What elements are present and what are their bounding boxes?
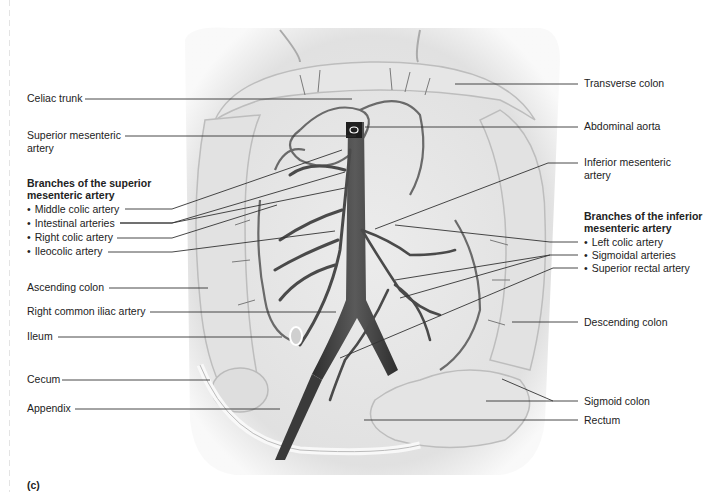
label-superior-mesenteric-artery-line2: artery <box>27 142 54 155</box>
panel-label: (c) <box>27 479 40 492</box>
anatomy-figure: Celiac trunk Superior mesenteric artery … <box>0 0 727 492</box>
label-cecum: Cecum <box>27 373 60 386</box>
label-ascending-colon: Ascending colon <box>27 281 104 294</box>
label-middle-colic-artery: Middle colic artery <box>27 203 119 216</box>
label-appendix: Appendix <box>27 402 71 415</box>
label-right-common-iliac-artery: Right common iliac artery <box>27 305 145 318</box>
label-celiac-trunk: Celiac trunk <box>27 92 82 105</box>
label-inferior-mesenteric-artery-line2: artery <box>584 169 611 182</box>
heading-ima-branches-line2: mesenteric artery <box>584 222 672 235</box>
label-inferior-mesenteric-artery-line1: Inferior mesenteric <box>584 156 671 169</box>
label-rectum: Rectum <box>584 414 620 427</box>
heading-sma-branches-line2: mesenteric artery <box>27 189 115 202</box>
label-abdominal-aorta: Abdominal aorta <box>584 120 660 133</box>
label-ileum: Ileum <box>27 330 53 343</box>
label-descending-colon: Descending colon <box>584 316 667 329</box>
label-intestinal-arteries: Intestinal arteries <box>27 217 115 230</box>
label-sigmoidal-arteries: Sigmoidal arteries <box>584 249 676 262</box>
label-ileocolic-artery: Ileocolic artery <box>27 245 102 258</box>
label-superior-mesenteric-artery-line1: Superior mesenteric <box>27 129 121 142</box>
label-transverse-colon: Transverse colon <box>584 77 664 90</box>
label-right-colic-artery: Right colic artery <box>27 231 113 244</box>
label-superior-rectal-artery: Superior rectal artery <box>584 262 690 275</box>
label-left-colic-artery: Left colic artery <box>584 236 663 249</box>
label-sigmoid-colon: Sigmoid colon <box>584 395 650 408</box>
